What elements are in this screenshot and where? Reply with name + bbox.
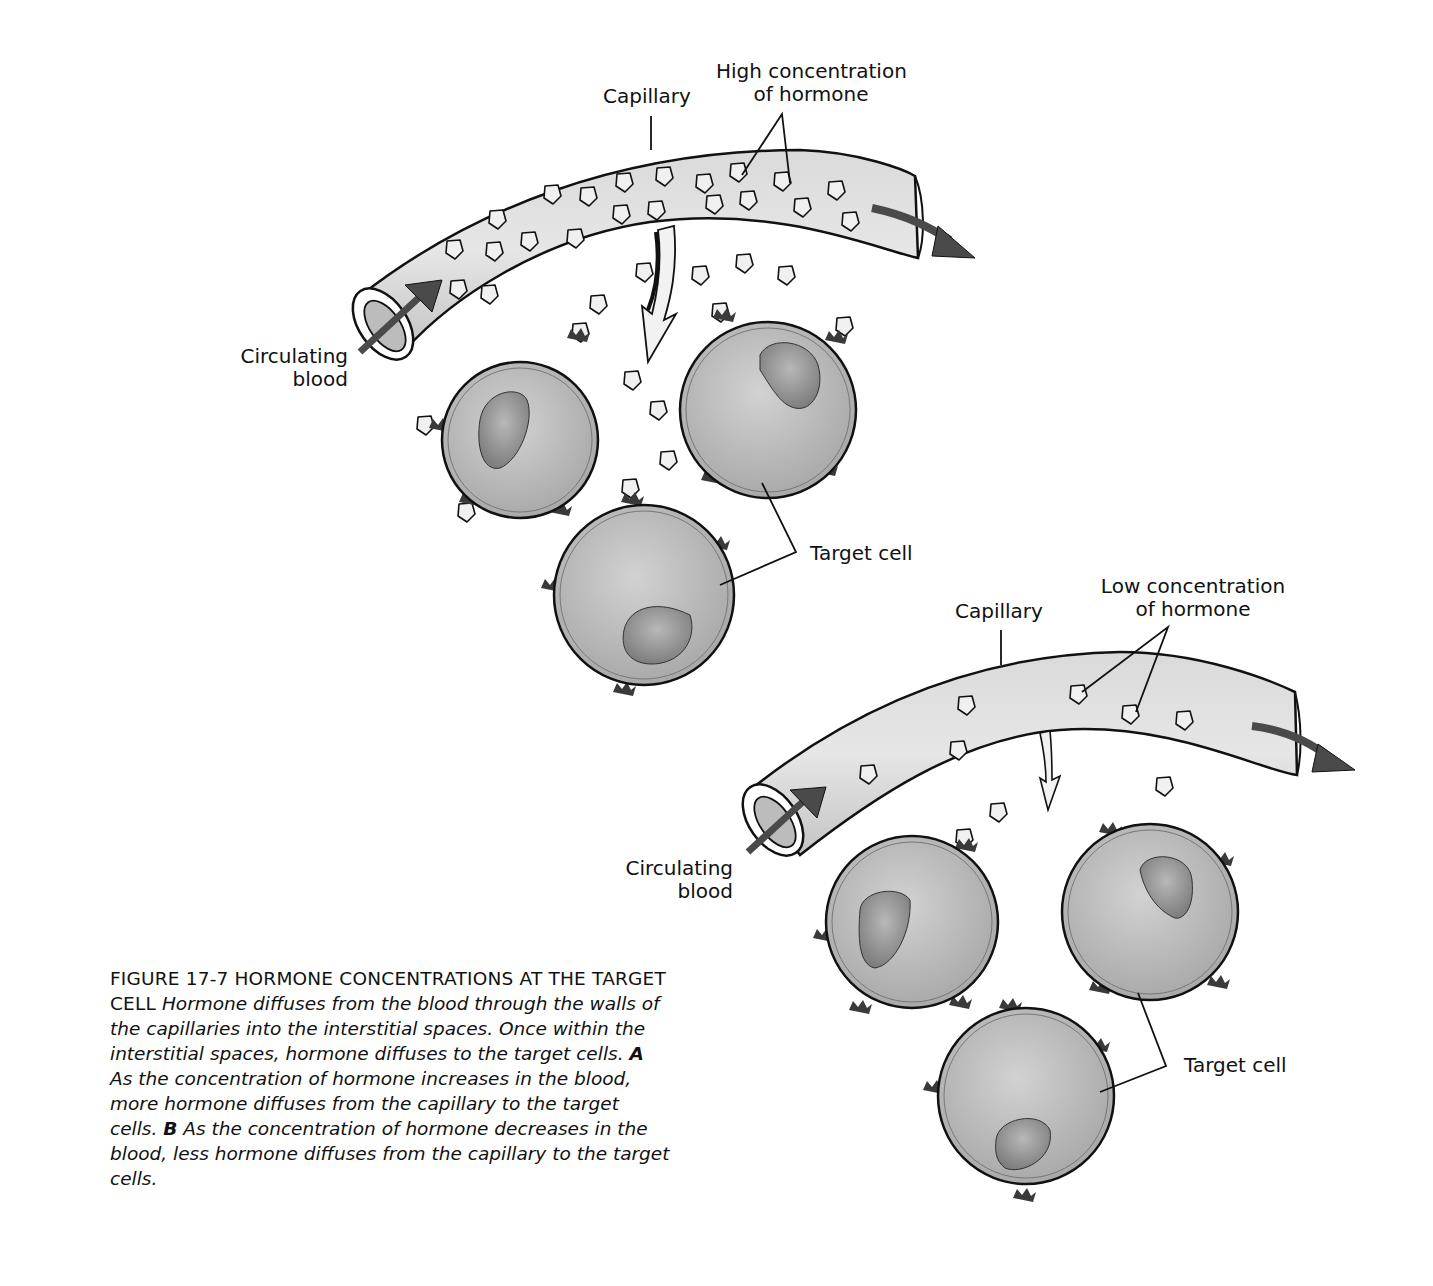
target-cell-b3 <box>923 998 1114 1202</box>
concentration-label-b-line1: Low concentration <box>1098 575 1288 598</box>
diffusion-arrow-a <box>642 226 676 362</box>
circulating-blood-label-a-line1: Circulating <box>220 345 348 368</box>
part-a-marker: A <box>629 1043 643 1064</box>
panel-b <box>730 627 1355 1202</box>
target-cell-b1 <box>813 836 998 1014</box>
figure-caption: FIGURE 17-7 HORMONE CONCENTRATIONS AT TH… <box>110 966 670 1191</box>
part-b-text: As the concentration of hormone decrease… <box>110 1118 669 1189</box>
concentration-label-a: High concentration of hormone <box>716 60 906 106</box>
target-cell-a1 <box>429 328 598 518</box>
diffusion-arrow-b <box>1040 731 1060 810</box>
target-cell-label-b: Target cell <box>1184 1054 1287 1077</box>
circulating-blood-label-a-line2: blood <box>220 368 348 391</box>
concentration-label-b-line2: of hormone <box>1098 598 1288 621</box>
panel-a <box>340 114 975 696</box>
figure-number: FIGURE 17-7 <box>110 968 229 989</box>
target-cell-b2 <box>1062 822 1238 1000</box>
capillary-label-b: Capillary <box>955 600 1043 623</box>
concentration-label-b: Low concentration of hormone <box>1098 575 1288 621</box>
target-cell-a3 <box>541 492 734 696</box>
circulating-blood-label-b-line2: blood <box>605 880 733 903</box>
circulating-blood-label-b: Circulating blood <box>605 857 733 903</box>
caption-intro: Hormone diffuses from the blood through … <box>110 993 660 1064</box>
capillary-label-a: Capillary <box>603 85 691 108</box>
capillary-b <box>730 652 1300 867</box>
part-b-marker: B <box>163 1118 177 1139</box>
circulating-blood-label-b-line1: Circulating <box>605 857 733 880</box>
target-cell-a2 <box>680 308 856 498</box>
concentration-label-a-line1: High concentration <box>716 60 906 83</box>
circulating-blood-label-a: Circulating blood <box>220 345 348 391</box>
concentration-label-a-line2: of hormone <box>716 83 906 106</box>
target-cell-label-a: Target cell <box>810 542 913 565</box>
